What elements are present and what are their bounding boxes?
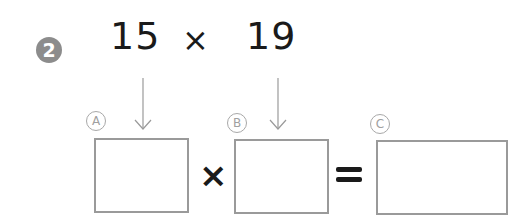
equals-symbol bbox=[336, 167, 362, 182]
answer-box-a[interactable] bbox=[94, 138, 189, 213]
answer-box-b[interactable] bbox=[234, 139, 329, 214]
label-a-circle: A bbox=[86, 111, 106, 131]
label-b-circle: B bbox=[227, 113, 247, 133]
answer-box-c[interactable] bbox=[376, 140, 508, 215]
times-symbol: × bbox=[199, 158, 228, 192]
label-c-circle: C bbox=[370, 114, 390, 134]
